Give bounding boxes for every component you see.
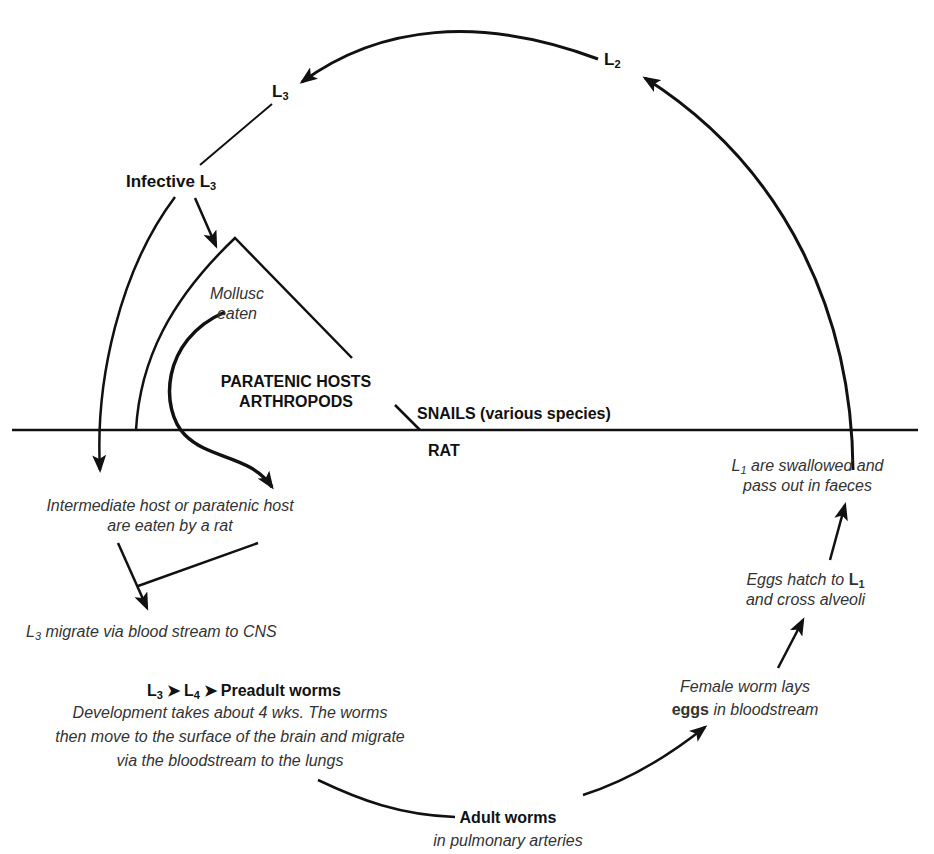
eggs-hatch-label: Eggs hatch to L1 and cross alveoli (728, 570, 883, 610)
eaten-by-rat-line1: Intermediate host or paratenic host (10, 496, 330, 516)
dev-arrow-1-icon: ➤ (167, 681, 180, 701)
arrow-infective-to-mollusc (195, 198, 216, 246)
infective-text: Infective (126, 172, 200, 191)
female-eggs: eggs (672, 701, 709, 718)
mollusc-eaten-label: Mollusc eaten (192, 284, 282, 324)
stage-l3-sub: 3 (282, 90, 288, 102)
arc-l2-to-l3 (302, 32, 598, 82)
adult-title: Adult worms (408, 806, 608, 829)
adult-worms-label: Adult worms in pulmonary arteries (408, 806, 608, 852)
development-header: L3➤L4➤Preadult worms (147, 681, 341, 701)
infective-sub: 3 (210, 180, 216, 192)
dev-l3: L (147, 682, 157, 699)
arrow-eaten-to-cns (118, 543, 147, 608)
rat-label: RAT (428, 441, 460, 461)
paratenic-line1: PARATENIC HOSTS (196, 372, 396, 392)
eggs-hatch-text: Eggs hatch to (746, 571, 848, 588)
line-l3-to-infective (200, 104, 272, 165)
arrow-eggs-to-swallowed (830, 505, 845, 560)
arrow-adult-to-female (583, 727, 705, 795)
swallowed-label: L1 are swallowed and pass out in faeces (700, 456, 915, 496)
mollusc-eaten-line1: Mollusc (192, 284, 282, 304)
mollusc-eaten-line2: eaten (192, 304, 282, 324)
eggs-hatch-l1: L (849, 571, 859, 588)
arc-faeces-to-l2 (645, 78, 853, 470)
stage-l2-sub: 2 (614, 58, 620, 70)
swallowed-line2: pass out in faeces (700, 476, 915, 496)
snails-label: SNAILS (various species) (417, 404, 611, 424)
female-line1: Female worm lays (640, 675, 850, 698)
stage-l3-letter: L (272, 82, 282, 101)
female-rest: in bloodstream (709, 701, 818, 718)
line-paratenic-join (138, 543, 258, 586)
migrate-text: migrate via blood stream to CNS (41, 623, 277, 640)
stage-l2-letter: L (604, 50, 614, 69)
dev-l4: L (184, 682, 194, 699)
dev-l3-sub: 3 (157, 689, 163, 701)
adult-sub: in pulmonary arteries (408, 829, 608, 852)
swallowed-line1: L1 are swallowed and (700, 456, 915, 476)
migrate-cns-label: L3 migrate via blood stream to CNS (26, 622, 277, 642)
arrow-female-to-eggs (778, 620, 803, 668)
paratenic-line2: ARTHROPODS (196, 392, 396, 412)
development-description: Development takes about 4 wks. The worms… (30, 701, 430, 773)
dev-line3: via the bloodstream to the lungs (30, 749, 430, 773)
stage-infective-l3: Infective L3 (126, 172, 216, 192)
eaten-by-rat-label: Intermediate host or paratenic host are … (10, 496, 330, 536)
female-worm-label: Female worm lays eggs in bloodstream (640, 675, 850, 721)
infective-letter: L (200, 172, 210, 191)
female-line2: eggs in bloodstream (640, 698, 850, 721)
stage-l2: L2 (604, 50, 621, 70)
eggs-hatch-l1-sub: 1 (858, 578, 864, 590)
stage-l3: L3 (272, 82, 289, 102)
dev-arrow-2-icon: ➤ (204, 681, 217, 701)
paratenic-hosts-label: PARATENIC HOSTS ARTHROPODS (196, 372, 396, 412)
dev-line2: then move to the surface of the brain an… (30, 725, 430, 749)
eaten-by-rat-line2: are eaten by a rat (10, 516, 330, 536)
eggs-hatch-line2: and cross alveoli (728, 590, 883, 610)
eggs-hatch-line1: Eggs hatch to L1 (728, 570, 883, 590)
dev-preadult: Preadult worms (221, 682, 341, 699)
dev-line1: Development takes about 4 wks. The worms (30, 701, 430, 725)
migrate-letter: L (26, 623, 35, 640)
swallowed-rest: are swallowed and (747, 457, 884, 474)
dev-l4-sub: 4 (194, 689, 200, 701)
